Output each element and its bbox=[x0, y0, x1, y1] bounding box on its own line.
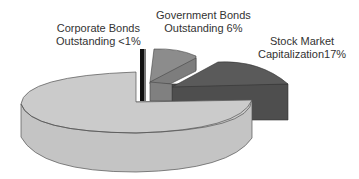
label-corporate-line1: Corporate Bonds bbox=[56, 22, 141, 35]
slice-corporate-bonds bbox=[140, 49, 146, 101]
label-government-line2: Outstanding 6% bbox=[156, 22, 251, 35]
label-stock-market: Stock Market Capitalization17% bbox=[258, 35, 346, 61]
label-stock-line2: Capitalization17% bbox=[258, 48, 346, 61]
label-stock-line1: Stock Market bbox=[258, 35, 346, 48]
pie-chart: Corporate Bonds Outstanding <1% Governme… bbox=[0, 0, 359, 179]
label-government-bonds: Government Bonds Outstanding 6% bbox=[156, 9, 251, 35]
label-government-line1: Government Bonds bbox=[156, 9, 251, 22]
label-corporate-bonds: Corporate Bonds Outstanding <1% bbox=[56, 22, 141, 48]
label-corporate-line2: Outstanding <1% bbox=[56, 35, 141, 48]
